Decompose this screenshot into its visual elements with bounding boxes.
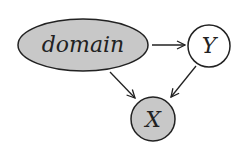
edge-y-to-x	[171, 66, 196, 97]
node-x: X	[131, 97, 175, 141]
graphical-model-diagram: domain Y X	[0, 0, 246, 152]
node-y-label: Y	[202, 33, 219, 58]
node-domain-label: domain	[42, 32, 125, 57]
node-y: Y	[188, 25, 230, 67]
edge-domain-to-x	[110, 72, 135, 98]
diagram-canvas: domain Y X	[0, 0, 246, 152]
node-domain: domain	[18, 19, 148, 71]
node-x-label: X	[143, 107, 162, 132]
